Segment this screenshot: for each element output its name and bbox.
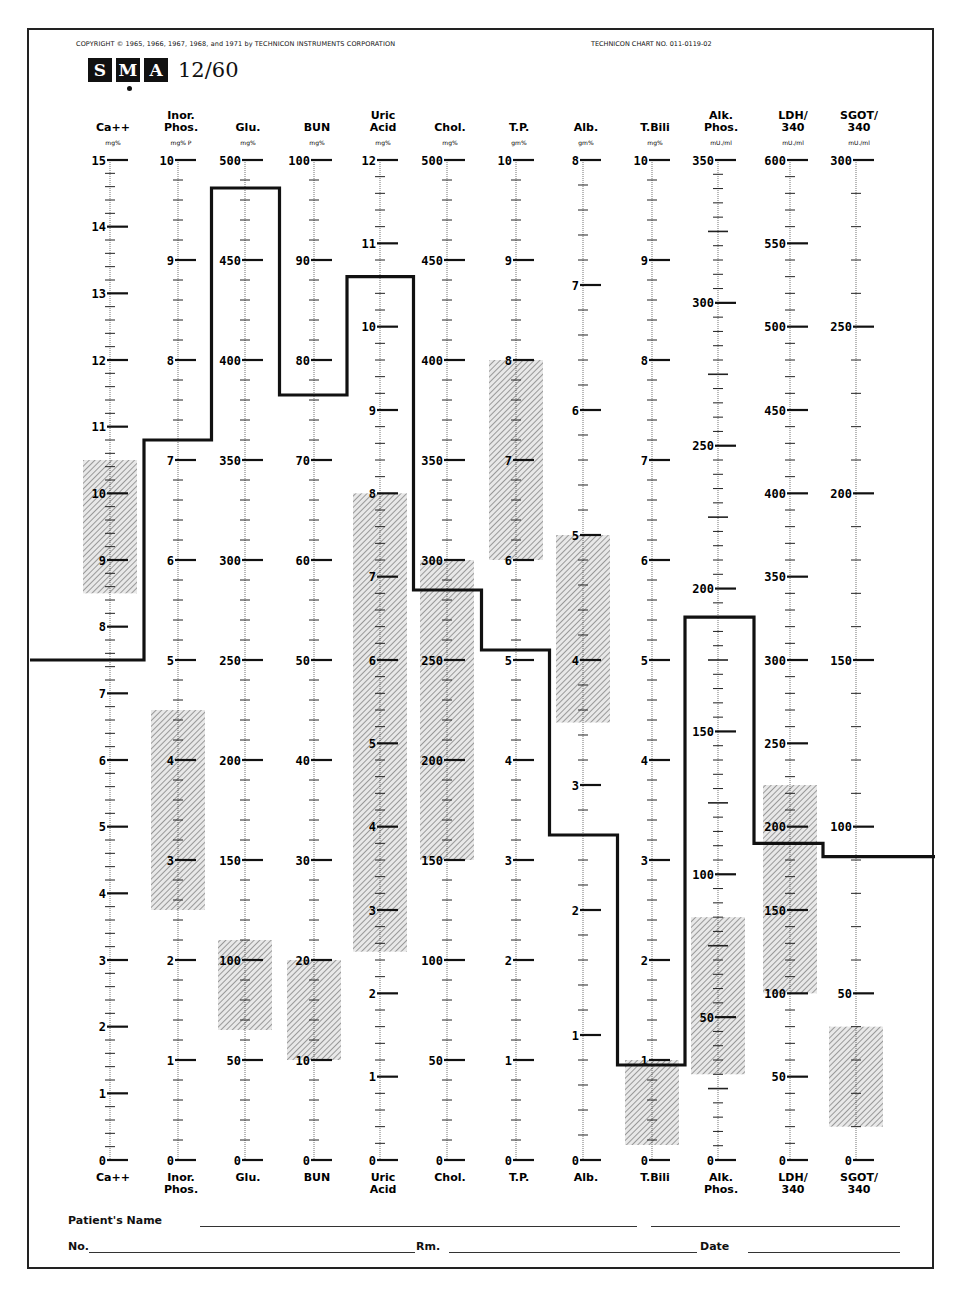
tick-label: 250	[764, 737, 786, 751]
column-unit: mg%	[240, 139, 256, 147]
column-header-line2: 340	[848, 121, 871, 134]
tick-label: 150	[830, 654, 852, 668]
tick-label: 4	[572, 654, 579, 668]
tick-label: 8	[641, 354, 648, 368]
tick-label: 10	[498, 154, 512, 168]
tick-label: 50	[838, 987, 852, 1001]
tick-label: 12	[362, 154, 376, 168]
tick-label: 3	[369, 904, 376, 918]
sma-chart: 0123456789101112131415012345678910050100…	[0, 0, 958, 1292]
tick-label: 8	[99, 620, 106, 634]
column-footer-label: Chol.	[434, 1171, 465, 1184]
column-header-line2: Glu.	[236, 121, 261, 134]
rm-field[interactable]	[449, 1252, 697, 1253]
tick-label: 3	[505, 854, 512, 868]
tick-label: 0	[436, 1154, 443, 1168]
tick-label: 10	[362, 320, 376, 334]
tick-label: 250	[692, 439, 714, 453]
tick-label: 5	[572, 529, 579, 543]
tick-label: 2	[641, 954, 648, 968]
column-unit: mU./ml	[710, 139, 732, 146]
tick-label: 100	[421, 954, 443, 968]
tick-label: 6	[641, 554, 648, 568]
tick-label: 50	[772, 1070, 786, 1084]
column-unit: mg% P	[171, 139, 192, 147]
tick-label: 9	[99, 554, 106, 568]
tick-label: 400	[219, 354, 241, 368]
tick-label: 150	[692, 725, 714, 739]
tick-label: 13	[92, 287, 106, 301]
tick-label: 150	[764, 904, 786, 918]
tick-label: 400	[421, 354, 443, 368]
column-header-line2: T.P.	[509, 121, 529, 134]
tick-label: 6	[167, 554, 174, 568]
tick-label: 0	[234, 1154, 241, 1168]
tick-label: 30	[296, 854, 310, 868]
tick-label: 5	[505, 654, 512, 668]
column-header-line2: Alb.	[574, 121, 598, 134]
tick-label: 4	[505, 754, 512, 768]
column-footer-label: Glu.	[236, 1171, 261, 1184]
tick-label: 7	[167, 454, 174, 468]
tick-label: 300	[830, 154, 852, 168]
tick-label: 9	[641, 254, 648, 268]
tick-label: 7	[99, 687, 106, 701]
tick-label: 200	[219, 754, 241, 768]
tick-label: 350	[692, 154, 714, 168]
column-unit: mg%	[442, 139, 458, 147]
tick-label: 5	[641, 654, 648, 668]
column-footer-label: T.Bili	[640, 1171, 670, 1184]
tick-label: 6	[369, 654, 376, 668]
tick-label: 0	[779, 1154, 786, 1168]
column-header-line2: Chol.	[434, 121, 465, 134]
tick-label: 9	[505, 254, 512, 268]
tick-label: 8	[167, 354, 174, 368]
tick-label: 350	[421, 454, 443, 468]
no-row: No.	[68, 1240, 89, 1253]
column-header-line2: Acid	[370, 121, 397, 134]
tick-label: 100	[288, 154, 310, 168]
tick-label: 0	[167, 1154, 174, 1168]
no-field[interactable]	[89, 1252, 415, 1253]
tick-label: 1	[369, 1070, 376, 1084]
tick-label: 0	[303, 1154, 310, 1168]
tick-label: 300	[692, 296, 714, 310]
tick-label: 3	[572, 779, 579, 793]
rm-row: Rm.	[416, 1240, 440, 1253]
tick-label: 8	[572, 154, 579, 168]
tick-label: 100	[692, 868, 714, 882]
scale-columns: 0123456789101112131415012345678910050100…	[92, 154, 874, 1168]
tick-label: 500	[219, 154, 241, 168]
tick-label: 350	[219, 454, 241, 468]
tick-label: 60	[296, 554, 310, 568]
date-row: Date	[700, 1240, 729, 1253]
tick-label: 7	[505, 454, 512, 468]
column-headers: Ca++mg%Ca++Inor.Phos.mg% PInor.Phos.Glu.…	[96, 109, 879, 1196]
tick-label: 3	[641, 854, 648, 868]
tick-label: 2	[505, 954, 512, 968]
tick-label: 4	[641, 754, 648, 768]
tick-label: 8	[505, 354, 512, 368]
tick-label: 150	[219, 854, 241, 868]
column-unit: mg%	[105, 139, 121, 147]
column-footer-label: 340	[782, 1183, 805, 1196]
tick-label: 200	[764, 820, 786, 834]
tick-label: 450	[764, 404, 786, 418]
column-header-line2: 340	[782, 121, 805, 134]
column-footer-label: Phos.	[704, 1183, 738, 1196]
tick-label: 1	[167, 1054, 174, 1068]
column-unit: gm%	[578, 139, 594, 147]
tick-label: 4	[167, 754, 174, 768]
tick-label: 0	[505, 1154, 512, 1168]
column-footer-label: Phos.	[164, 1183, 198, 1196]
tick-label: 300	[421, 554, 443, 568]
patient-extra-field[interactable]	[651, 1226, 900, 1227]
tick-label: 5	[167, 654, 174, 668]
tick-label: 70	[296, 454, 310, 468]
tick-label: 250	[830, 320, 852, 334]
date-field[interactable]	[748, 1252, 900, 1253]
patient-name-field[interactable]	[200, 1226, 637, 1227]
tick-label: 450	[421, 254, 443, 268]
tick-label: 50	[296, 654, 310, 668]
tick-label: 6	[99, 754, 106, 768]
